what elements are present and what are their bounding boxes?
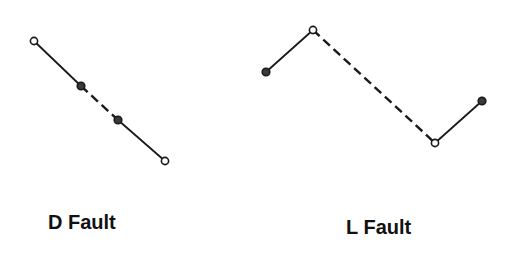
dashed-segment: [313, 30, 435, 143]
solid-segment: [435, 101, 482, 143]
open-point-marker: [431, 139, 438, 146]
dashed-segment: [81, 86, 118, 120]
solid-segment: [118, 120, 165, 161]
open-point-marker: [161, 157, 168, 164]
filled-point-marker: [478, 97, 486, 105]
d-fault-label: D Fault: [48, 212, 116, 232]
solid-segment: [266, 30, 313, 72]
filled-point-marker: [262, 68, 270, 76]
filled-point-marker: [114, 116, 122, 124]
solid-segment: [34, 41, 81, 86]
open-point-marker: [30, 37, 37, 44]
l-fault-label: L Fault: [346, 217, 411, 237]
l-fault-diagram: [262, 26, 486, 146]
open-point-marker: [309, 26, 316, 33]
filled-point-marker: [77, 82, 85, 90]
d-fault-diagram: [30, 37, 168, 164]
